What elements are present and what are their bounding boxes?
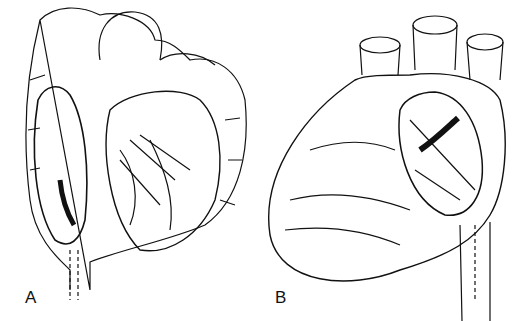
panel-b-heart-external: B <box>250 0 530 321</box>
panel-label-a: A <box>25 288 36 308</box>
heart-cutaway-illustration <box>0 0 260 321</box>
panel-a-heart-cutaway: A <box>0 0 260 321</box>
heart-external-illustration <box>250 0 530 321</box>
panel-label-b: B <box>275 288 286 308</box>
